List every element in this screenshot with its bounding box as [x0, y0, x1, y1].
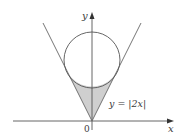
- curve-label: y = |2x|: [108, 98, 146, 110]
- y-axis-arrow-icon: [90, 12, 95, 19]
- diagram: y x 0 y = |2x|: [0, 0, 176, 135]
- origin-label: 0: [84, 124, 90, 134]
- y-axis-label: y: [81, 10, 88, 21]
- x-axis-label: x: [168, 123, 174, 134]
- left-branch-line: [43, 23, 92, 121]
